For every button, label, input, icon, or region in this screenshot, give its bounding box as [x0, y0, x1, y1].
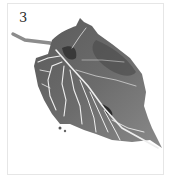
leaf-blade [34, 18, 162, 148]
leaf-illustration [0, 0, 170, 182]
